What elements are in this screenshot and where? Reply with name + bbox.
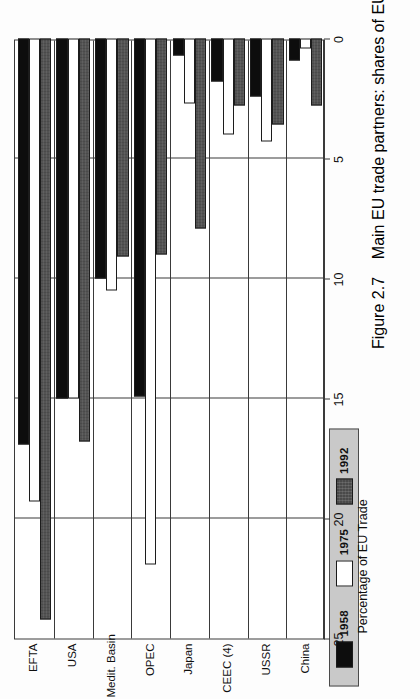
caption-number: Figure 2.7	[370, 277, 387, 349]
axis-tick-label: 20	[332, 512, 346, 526]
bar-chart-figure: 1958 1975 1992 EFT	[0, 0, 420, 699]
axis-tick	[324, 518, 330, 519]
legend-swatch-1992-icon	[336, 478, 353, 504]
value-axis: 0510152025	[324, 39, 325, 639]
axis-tick-label: 25	[332, 632, 346, 646]
caption-text: Main EU trade partners: shares of EU tra…	[370, 0, 387, 259]
axis-title: Percentage of EU Trade	[356, 499, 370, 633]
category-label-japan: Japan	[182, 643, 194, 697]
axis-tick-label: 5	[332, 156, 346, 163]
legend-label-1992: 1992	[338, 447, 350, 473]
category-axis-labels: EFTAUSAMedit. BasinOPECJapanCEEC (4)USSR…	[14, 39, 324, 639]
legend-item-1975: 1975	[336, 528, 353, 585]
legend-label-1975: 1975	[338, 528, 350, 554]
legend-swatch-1975-icon	[336, 560, 353, 586]
chart-legend: 1958 1975 1992	[329, 428, 359, 686]
category-label-opec: OPEC	[144, 643, 156, 697]
axis-tick-label: 10	[332, 272, 346, 286]
caption-spacer	[370, 264, 387, 273]
axis-tick	[324, 158, 330, 159]
category-label-ceec-4: CEEC (4)	[221, 643, 233, 697]
category-label-ussr: USSR	[260, 643, 272, 697]
legend-item-1992: 1992	[336, 447, 353, 504]
axis-tick-label: 0	[332, 36, 346, 43]
axis-tick	[324, 278, 330, 279]
category-label-usa: USA	[66, 643, 78, 697]
axis-tick	[324, 638, 330, 639]
category-label-efta: EFTA	[27, 643, 39, 697]
category-label-medit-basin: Medit. Basin	[105, 643, 117, 697]
axis-tick	[324, 398, 330, 399]
axis-tick	[324, 38, 330, 39]
rotated-page-wrapper: 1958 1975 1992 EFT	[0, 0, 420, 699]
category-label-china: China	[299, 643, 311, 697]
axis-tick-label: 15	[332, 392, 346, 406]
figure-page: 1958 1975 1992 EFT	[0, 0, 420, 699]
figure-caption: Figure 2.7 Main EU trade partners: share…	[370, 0, 388, 349]
